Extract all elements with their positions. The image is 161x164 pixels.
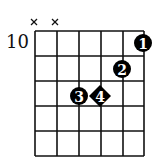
- svg-text:2: 2: [117, 62, 127, 78]
- svg-text:1: 1: [138, 36, 148, 52]
- muted-string-markers: [31, 19, 58, 25]
- svg-text:3: 3: [74, 89, 84, 105]
- finger-2: 2: [113, 60, 131, 78]
- chord-grid: 1 2 3 4: [0, 0, 161, 164]
- muted-string-2-icon: [52, 19, 58, 25]
- svg-text:4: 4: [95, 89, 105, 105]
- muted-string-1-icon: [31, 19, 37, 25]
- finger-4: 4: [89, 85, 111, 107]
- finger-3: 3: [70, 87, 88, 105]
- finger-1: 1: [134, 34, 152, 52]
